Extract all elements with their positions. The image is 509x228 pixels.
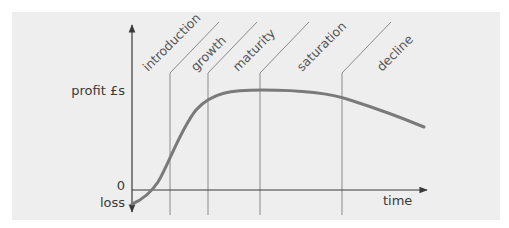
y-axis-zero-label: 0 [117,178,125,193]
product-life-cycle-diagram: introduction growth maturity saturation … [0,0,509,228]
y-axis-loss-label: loss [100,195,125,210]
profit-curve [132,90,424,204]
stage-label-decline: decline [374,31,417,74]
x-axis-label: time [383,193,412,208]
divider-maturity-saturation [260,22,309,215]
divider-saturation-decline [342,22,391,215]
y-axis-label: profit £s [71,83,125,98]
stage-label-maturity: maturity [230,25,279,74]
stage-label-saturation: saturation [294,18,350,74]
stage-label-growth: growth [188,33,229,74]
